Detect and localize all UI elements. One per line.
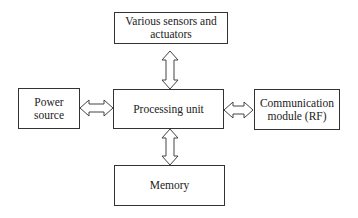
memory-box: Memory: [114, 165, 225, 206]
arrow-processing-memory: [162, 129, 178, 165]
sensors-actuators-box: Various sensors and actuators: [114, 12, 228, 44]
power-source-label: Power source: [25, 96, 73, 122]
processing-unit-box: Processing unit: [113, 89, 224, 129]
sensors-actuators-label: Various sensors and actuators: [115, 15, 227, 41]
arrow-sensors-processing: [162, 51, 178, 89]
memory-label: Memory: [150, 179, 190, 192]
arrow-processing-communication: [224, 102, 253, 118]
communication-module-box: Communication module (RF): [254, 89, 340, 130]
processing-unit-label: Processing unit: [133, 103, 204, 116]
communication-module-label: Communication module (RF): [259, 97, 335, 123]
power-source-box: Power source: [18, 88, 80, 129]
arrow-power-processing: [80, 100, 113, 116]
